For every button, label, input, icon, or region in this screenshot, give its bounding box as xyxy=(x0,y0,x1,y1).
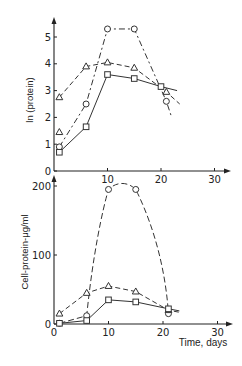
series-line-triangles xyxy=(59,286,179,314)
y-axis-label: Cell-protein-μg/ml xyxy=(19,214,30,289)
triangle-marker-icon xyxy=(56,310,63,316)
y-axis-arrow-icon xyxy=(52,175,57,182)
x-axis-arrow-icon xyxy=(226,322,233,327)
x-tick-label: 10 xyxy=(102,327,115,338)
y-tick-label: 200 xyxy=(32,181,51,192)
triangle-marker-icon xyxy=(105,282,112,288)
circle-marker-icon xyxy=(131,26,137,32)
x-tick-label: 30 xyxy=(208,174,221,185)
y-tick-label: 3 xyxy=(45,85,51,96)
x-axis-label: Time, days xyxy=(179,337,228,348)
y-axis-arrow-icon xyxy=(52,17,57,24)
square-marker-icon xyxy=(84,318,90,324)
y-tick-label: 2 xyxy=(45,112,51,123)
circle-marker-icon xyxy=(105,26,111,32)
square-marker-icon xyxy=(57,321,63,327)
x-tick-label: 0 xyxy=(51,327,57,338)
triangle-marker-icon xyxy=(131,64,138,70)
x-axis-arrow-icon xyxy=(224,169,231,174)
y-tick-label: 4 xyxy=(45,58,51,69)
y-tick-label: 100 xyxy=(32,250,51,261)
x-tick-label: 20 xyxy=(155,174,168,185)
x-tick-label: 20 xyxy=(157,327,170,338)
circle-marker-icon xyxy=(106,186,112,192)
y-tick-label: 1 xyxy=(45,139,51,150)
square-marker-icon xyxy=(166,306,172,312)
y-tick-label: 5 xyxy=(45,32,51,43)
x-tick-label: 10 xyxy=(101,174,114,185)
square-marker-icon xyxy=(83,124,89,130)
circle-marker-icon xyxy=(133,186,139,192)
square-marker-icon xyxy=(106,297,112,303)
triangle-marker-icon xyxy=(104,59,111,65)
square-marker-icon xyxy=(105,72,111,78)
triangle-marker-icon xyxy=(56,129,63,135)
chart-figure: 012345102030ln (protein) 01002000102030C… xyxy=(0,0,242,366)
square-marker-icon xyxy=(131,76,137,82)
series-line-triangles xyxy=(59,62,179,104)
circle-marker-icon xyxy=(163,98,169,104)
square-marker-icon xyxy=(57,149,63,155)
top-panel: 012345102030ln (protein) xyxy=(24,17,231,185)
series-line-circles xyxy=(59,29,171,147)
square-marker-icon xyxy=(158,84,164,90)
series-line-squares xyxy=(59,300,179,323)
y-axis-label: ln (protein) xyxy=(24,77,35,122)
square-marker-icon xyxy=(133,299,139,305)
circle-marker-icon xyxy=(83,101,89,107)
series-line-circles xyxy=(59,183,168,323)
y-tick-label: 0 xyxy=(45,166,51,177)
bottom-panel: 01002000102030Cell-protein-μg/mlTime, da… xyxy=(19,175,233,348)
